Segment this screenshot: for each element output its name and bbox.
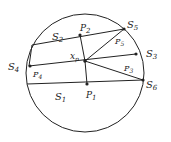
label-p1: P1: [85, 90, 97, 102]
perp-p2: [80, 35, 85, 61]
segment-left: [29, 45, 32, 66]
point-p4: [28, 64, 31, 67]
point-p2: [78, 33, 81, 36]
label-s1: S1: [55, 91, 66, 104]
ray-s6: [85, 61, 143, 80]
point-xp: [83, 59, 87, 63]
label-s6: S6: [146, 79, 158, 92]
point-s5: [122, 27, 125, 30]
label-s5: S5: [127, 19, 139, 32]
perp-p1: [85, 61, 87, 84]
point-s3: [134, 52, 137, 55]
chord-s2: [32, 29, 124, 45]
chord-s1: [27, 80, 143, 84]
point-p1: [85, 82, 88, 85]
chord-s4-s3: [29, 54, 136, 66]
label-s3: S3: [146, 48, 158, 61]
label-p3: P3: [123, 64, 133, 74]
label-p2: P2: [79, 23, 91, 35]
label-p4: P4: [32, 70, 42, 80]
label-p5: P5: [114, 37, 124, 47]
circle-partition-diagram: S2 P2 S5 P5 xp S3 P3 S4 P4 S6 S1 P1: [0, 0, 171, 142]
point-s6: [141, 78, 144, 81]
label-s4: S4: [8, 61, 19, 74]
label-s2: S2: [52, 31, 64, 44]
